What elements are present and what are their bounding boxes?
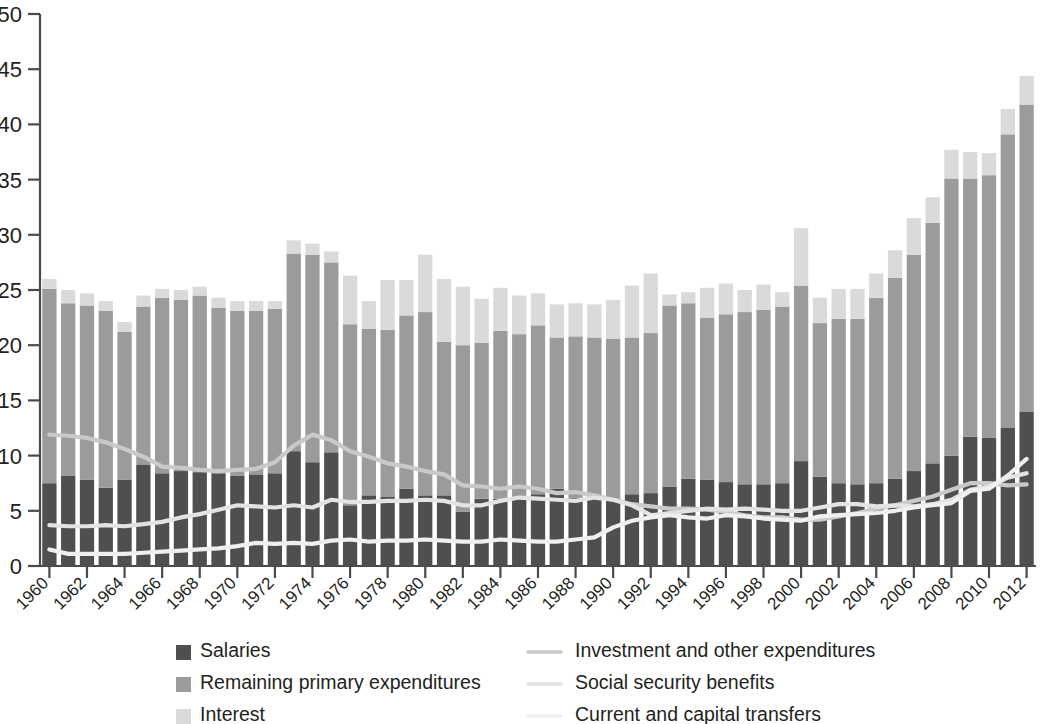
legend-label: Investment and other expenditures [575,639,876,661]
bar-segment-interest [61,290,75,303]
legend-label: Social security benefits [575,671,775,693]
bar-segment-remaining-primary-expenditures [644,333,658,493]
bar-stack [211,298,225,566]
bar-segment-remaining-primary-expenditures [926,223,940,464]
bar-stack [287,240,301,566]
bar-segment-remaining-primary-expenditures [1001,134,1015,428]
bar-segment-remaining-primary-expenditures [249,311,263,474]
bar-segment-salaries [888,479,902,566]
y-tick-label: 45 [0,57,22,82]
bar-segment-remaining-primary-expenditures [42,289,56,483]
bar-segment-interest [512,296,526,335]
bar-segment-interest [362,301,376,329]
bar-stack [343,276,357,566]
legend-label: Salaries [200,639,271,661]
bar-stack [963,152,977,566]
bar-segment-salaries [437,495,451,566]
stacked-bar-chart-with-lines: 05101520253035404550 1960196219641966196… [0,0,1058,724]
bar-segment-interest [756,284,770,309]
bar-segment-interest [136,296,150,307]
bar-segment-remaining-primary-expenditures [832,319,846,484]
bar-segment-remaining-primary-expenditures [625,337,639,494]
bar-segment-remaining-primary-expenditures [211,308,225,474]
bar-segment-interest [193,287,207,296]
y-tick-label: 25 [0,278,22,303]
bar-stack [174,290,188,566]
bar-segment-salaries [963,437,977,566]
bar-segment-interest [399,280,413,315]
bar-segment-salaries [493,499,507,566]
bar-stack [249,301,263,566]
bar-stack [568,303,582,566]
bar-segment-salaries [211,473,225,566]
bar-segment-interest [324,251,338,262]
bar-segment-remaining-primary-expenditures [1019,105,1033,412]
bar-segment-interest [80,293,94,305]
legend-item-remaining-primary-expenditures[interactable]: Remaining primary expenditures [176,671,481,693]
bar-stack [662,294,676,566]
bar-segment-interest [474,299,488,343]
bar-segment-salaries [287,451,301,566]
bar-segment-interest [606,300,620,339]
bar-segment-interest [99,301,113,311]
legend-item-investment-and-other-expenditures[interactable]: Investment and other expenditures [528,639,876,661]
bar-stack [474,299,488,566]
bar-segment-remaining-primary-expenditures [230,311,244,476]
bar-segment-remaining-primary-expenditures [268,309,282,474]
bar-segment-interest [155,289,169,298]
legend-swatch-box [176,709,191,724]
bar-segment-interest [343,276,357,325]
bar-segment-salaries [738,484,752,566]
bar-stack [719,283,733,566]
bar-segment-interest [944,150,958,179]
bar-stack [1019,76,1033,566]
bar-segment-salaries [324,452,338,566]
bar-segment-remaining-primary-expenditures [944,179,958,456]
bar-segment-salaries [587,498,601,566]
bar-stack [399,280,413,566]
bar-stack [869,273,883,566]
bar-segment-remaining-primary-expenditures [550,337,564,488]
bar-segment-salaries [907,471,921,566]
bar-segment-interest [907,218,921,254]
bar-segment-salaries [775,483,789,566]
bar-segment-salaries [944,456,958,566]
bar-segment-interest [794,228,808,285]
bar-segment-salaries [756,484,770,566]
bar-segment-remaining-primary-expenditures [362,329,376,496]
bar-segment-interest [493,288,507,331]
bar-stack [230,301,244,566]
bar-segment-salaries [193,472,207,566]
bar-stack [305,244,319,566]
bar-segment-interest [662,294,676,305]
y-tick-label: 20 [0,333,22,358]
bar-stack [456,287,470,566]
bar-stack [193,287,207,566]
bar-segment-salaries [249,474,263,566]
bar-segment-interest [456,287,470,346]
legend-label: Current and capital transfers [575,703,821,724]
bar-segment-interest [174,290,188,300]
bar-segment-salaries [362,495,376,566]
bar-stack [700,288,714,566]
bar-segment-salaries [982,438,996,566]
bar-segment-interest [888,250,902,278]
bar-stack [813,298,827,566]
chart-figure: 05101520253035404550 1960196219641966196… [0,0,1058,724]
bar-segment-interest [719,283,733,314]
bar-segment-remaining-primary-expenditures [756,310,770,484]
y-tick-label: 50 [0,2,22,27]
bar-segment-remaining-primary-expenditures [343,324,357,505]
bar-segment-salaries [268,473,282,566]
bar-stack [268,301,282,566]
bar-segment-remaining-primary-expenditures [888,278,902,479]
y-tick-label: 5 [10,499,22,524]
bar-segment-salaries [794,461,808,566]
bar-stack [550,304,564,566]
bar-segment-interest [211,298,225,308]
bar-segment-interest [249,301,263,311]
bar-segment-interest [1019,76,1033,105]
bar-segment-remaining-primary-expenditures [982,175,996,438]
bar-stack [437,279,451,566]
bar-segment-remaining-primary-expenditures [512,334,526,497]
